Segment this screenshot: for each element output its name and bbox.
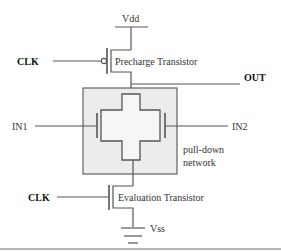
in2-label: IN2 <box>232 121 248 132</box>
in1-label: IN1 <box>12 121 28 132</box>
clk-top-label: CLK <box>17 56 39 67</box>
precharge-label: Precharge Transistor <box>115 56 198 67</box>
evaluation-label: Evaluation Transistor <box>118 192 205 203</box>
ground-icon <box>121 228 145 243</box>
out-label: OUT <box>244 72 266 83</box>
pulldown-label-line1: pull-down <box>183 144 224 155</box>
vss-label: Vss <box>150 223 165 234</box>
clk-bottom-label: CLK <box>28 192 50 203</box>
dynamic-logic-diagram: Vdd CLK Precharge Transistor OUT IN1 IN2… <box>0 0 281 252</box>
vdd-label: Vdd <box>122 13 139 24</box>
pulldown-label-line2: network <box>183 157 216 168</box>
inverter-bubble-icon <box>101 58 106 63</box>
